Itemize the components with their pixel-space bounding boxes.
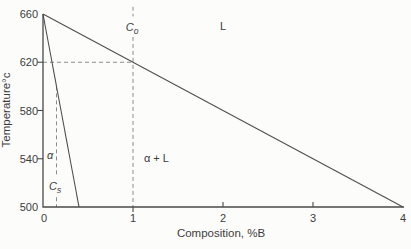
y-tick-label-660: 660 [20,8,38,20]
boundary-lines-layer [43,14,403,207]
y-axis-title: Temperature°c [0,72,12,147]
label-alpha-plus-liquid: α + L [144,152,169,164]
region-labels-layer: LCoα + LαCs [47,20,226,195]
label-alpha: α [47,149,54,161]
y-tick-label-540: 540 [20,153,38,165]
label-liquid: L [220,20,226,32]
label-c0-subscript: o [134,26,139,36]
x-axis-title: Composition, %B [177,227,266,239]
solidus-line [43,14,79,207]
liquidus-line [43,14,403,207]
construction-lines-layer [43,7,133,207]
y-tick-label-580: 580 [20,105,38,117]
y-tick-label-620: 620 [20,56,38,68]
ticks-layer: 50054058062066001234 [20,8,406,224]
x-tick-label-4: 4 [400,212,406,224]
phase-diagram: 50054058062066001234 LCoα + LαCs Composi… [0,0,411,249]
y-tick-label-500: 500 [20,201,38,213]
x-tick-label-3: 3 [310,212,316,224]
label-cs: Cs [49,180,62,195]
label-c0: Co [126,21,139,36]
x-tick-label-2: 2 [220,212,226,224]
x-tick-label-0: 0 [41,212,47,224]
phase-diagram-figure: 50054058062066001234 LCoα + LαCs Composi… [0,0,411,249]
x-tick-label-1: 1 [130,212,136,224]
label-cs-subscript: s [57,185,62,195]
